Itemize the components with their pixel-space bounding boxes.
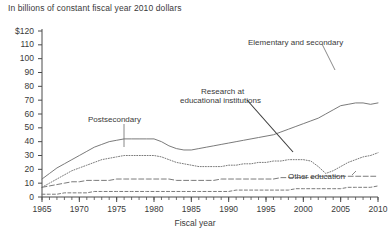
y-axis-tick-label: 80 <box>0 81 34 91</box>
y-axis-tick-label: 110 <box>0 39 34 49</box>
y-axis-tick-label: 20 <box>0 164 34 174</box>
x-axis-major-ticks <box>42 197 378 202</box>
y-axis-tick-label: 40 <box>0 136 34 146</box>
y-axis-tick-label: 0 <box>0 192 34 202</box>
annot-other: Other education <box>288 172 345 182</box>
x-axis-tick-label: 1965 <box>22 204 62 214</box>
y-axis-tick-label: 70 <box>0 95 34 105</box>
y-axis-tick-label: 90 <box>0 67 34 77</box>
x-axis-tick-label: 1990 <box>209 204 249 214</box>
y-axis-tick-label: 30 <box>0 150 34 160</box>
chart-figure: In billions of constant fiscal year 2010… <box>0 0 390 236</box>
leader-line-other <box>352 171 356 175</box>
x-axis-title: Fiscal year <box>0 218 390 228</box>
annot-postsecondary: Postsecondary <box>88 115 141 125</box>
y-axis-tick-label: 50 <box>0 122 34 132</box>
series-line-other-education <box>42 186 378 194</box>
x-axis-tick-label: 1970 <box>59 204 99 214</box>
x-axis-tick-label: 2010 <box>358 204 390 214</box>
x-axis-tick-label: 1975 <box>97 204 137 214</box>
y-axis-tick-label: 60 <box>0 109 34 119</box>
x-axis-tick-label: 2000 <box>283 204 323 214</box>
y-axis-tick-label: 10 <box>0 178 34 188</box>
chart-plot-area <box>0 0 390 236</box>
x-axis-tick-label: 1995 <box>246 204 286 214</box>
x-axis-tick-label: 2005 <box>321 204 361 214</box>
x-axis-tick-label: 1980 <box>134 204 174 214</box>
leader-line-research <box>247 100 293 152</box>
annot-elementary: Elementary and secondary <box>248 38 343 48</box>
x-axis-tick-label: 1985 <box>171 204 211 214</box>
y-axis-tick-label: $120 <box>0 26 34 36</box>
y-axis-tick-label: 100 <box>0 53 34 63</box>
series-line-postsecondary <box>42 153 378 188</box>
annot-research-line2: educational institutions <box>180 96 261 106</box>
y-axis-ticks <box>38 31 42 197</box>
leader-line-elementary <box>322 44 335 70</box>
